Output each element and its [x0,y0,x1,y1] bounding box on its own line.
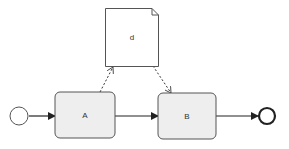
bpmn-canvas: A B d [0,0,289,149]
task-b-label: B [184,112,189,121]
data-association-d-to-b[interactable] [153,66,171,93]
task-b[interactable]: B [158,93,216,139]
data-association-a-to-d[interactable] [100,67,113,92]
task-a[interactable]: A [55,92,115,138]
start-event[interactable] [10,107,28,125]
task-a-label: A [82,111,88,120]
data-object-d[interactable]: d [106,9,159,67]
end-event[interactable] [259,108,275,124]
data-object-label: d [130,33,134,42]
